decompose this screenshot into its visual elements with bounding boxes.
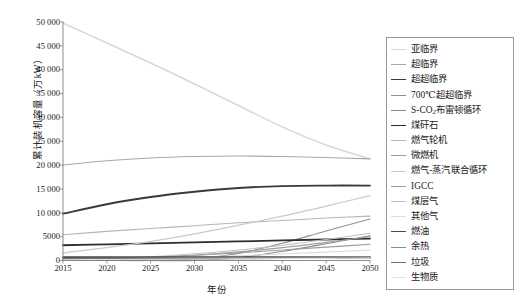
legend-swatch [391, 110, 406, 111]
legend-item[interactable]: 燃油 [391, 224, 510, 239]
legend-item[interactable]: 生物质 [391, 270, 510, 285]
legend-swatch [391, 216, 406, 217]
legend-item[interactable]: 亚临界 [391, 42, 510, 57]
legend-item[interactable]: 微燃机 [391, 148, 510, 163]
legend-swatch [391, 140, 406, 141]
series-line [63, 233, 370, 259]
legend-swatch [391, 79, 406, 80]
legend-label: 燃气-蒸汽联合循环 [411, 166, 487, 175]
legend-item[interactable]: 垃圾 [391, 255, 510, 270]
chart-figure: 累计装机容量（万kW） 0500010 00015 00020 00025 00… [0, 0, 521, 302]
legend-label: 微燃机 [411, 151, 438, 160]
legend-swatch [391, 201, 406, 202]
legend-item[interactable]: IGCC [391, 179, 510, 194]
legend-item[interactable]: 燃气-蒸汽联合循环 [391, 164, 510, 179]
series-line [63, 156, 370, 165]
legend-swatch [391, 231, 406, 232]
legend-label: 超临界 [411, 60, 438, 69]
axis-frame [60, 22, 370, 264]
legend-swatch [391, 64, 406, 65]
legend-swatch [391, 277, 406, 278]
legend-item[interactable]: S-CO2布雷顿循环 [391, 103, 510, 118]
legend-swatch [391, 125, 406, 126]
series-line [63, 186, 370, 214]
legend-label: 700℃超超临界 [411, 91, 472, 100]
legend-label: 亚临界 [411, 45, 438, 54]
legend-swatch [391, 95, 406, 96]
series-lines [63, 23, 370, 261]
legend-label: 生物质 [411, 273, 438, 282]
legend-swatch [391, 49, 406, 50]
legend-item[interactable]: 燃气轮机 [391, 133, 510, 148]
series-line [63, 23, 370, 159]
legend-label: 其他气 [411, 212, 438, 221]
legend-swatch [391, 171, 406, 172]
legend-label: IGCC [411, 182, 434, 191]
legend-swatch [391, 186, 406, 187]
legend-swatch [391, 262, 406, 263]
legend-swatch [391, 247, 406, 248]
legend-label: 燃油 [411, 227, 429, 236]
legend-item[interactable]: 煤矸石 [391, 118, 510, 133]
legend-swatch [391, 155, 406, 156]
legend-label: 余热 [411, 242, 429, 251]
legend-label: 垃圾 [411, 258, 429, 267]
chart-legend: 亚临界超临界超超临界700℃超超临界S-CO2布雷顿循环煤矸石燃气轮机微燃机燃气… [386, 37, 514, 290]
legend-item[interactable]: 超临界 [391, 57, 510, 72]
legend-label: 煤层气 [411, 197, 438, 206]
legend-label: S-CO2布雷顿循环 [411, 106, 482, 115]
legend-item[interactable]: 煤层气 [391, 194, 510, 209]
legend-label: 燃气轮机 [411, 136, 447, 145]
legend-label: 煤矸石 [411, 121, 438, 130]
legend-item[interactable]: 其他气 [391, 209, 510, 224]
legend-item[interactable]: 超超临界 [391, 72, 510, 87]
legend-item[interactable]: 余热 [391, 239, 510, 254]
legend-item[interactable]: 700℃超超临界 [391, 88, 510, 103]
legend-label: 超超临界 [411, 75, 447, 84]
